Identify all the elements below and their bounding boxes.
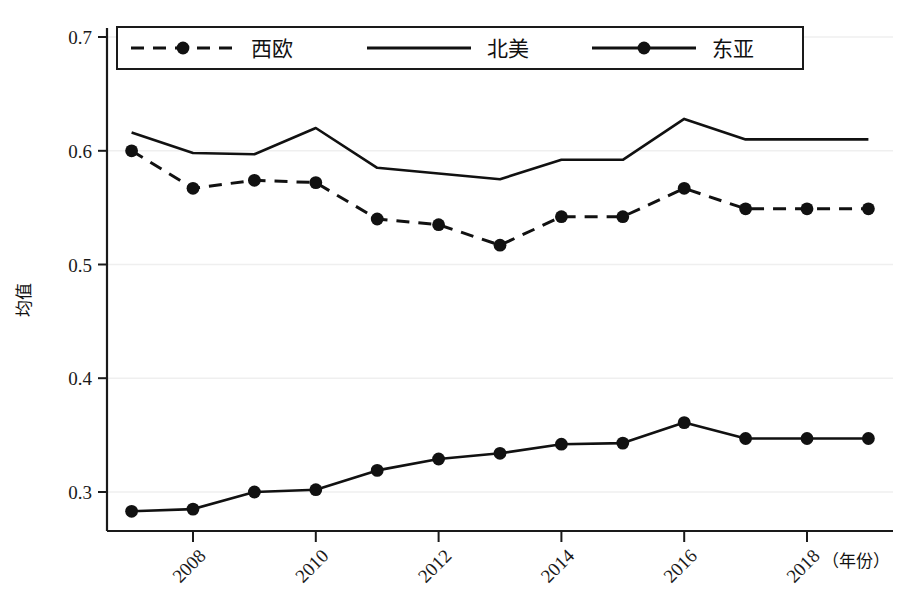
line-chart: 0.30.40.50.60.7 200820102012201420162018… (0, 0, 907, 610)
data-point (678, 182, 691, 195)
data-point (494, 447, 507, 460)
legend-marker-sample (638, 42, 651, 55)
y-axis-title: 均值 (15, 283, 34, 317)
data-point (432, 218, 445, 231)
legend-label: 西欧 (251, 37, 293, 60)
y-tick-label: 0.6 (68, 141, 92, 162)
data-point (494, 239, 507, 252)
chart-canvas: 0.30.40.50.60.7 200820102012201420162018… (0, 0, 907, 610)
data-point (739, 202, 752, 215)
data-point (309, 483, 322, 496)
data-point (125, 144, 138, 157)
chart-background (0, 0, 907, 610)
data-point (187, 503, 200, 516)
data-point (862, 202, 875, 215)
y-tick-label: 0.3 (68, 482, 92, 503)
data-point (555, 438, 568, 451)
data-point (248, 174, 261, 187)
legend-marker-sample (177, 42, 190, 55)
data-point (801, 432, 814, 445)
legend-label: 东亚 (712, 37, 754, 60)
data-point (616, 437, 629, 450)
legend-label: 北美 (487, 37, 529, 60)
data-point (432, 453, 445, 466)
data-point (555, 210, 568, 223)
data-point (371, 464, 384, 477)
y-tick-label: 0.5 (68, 255, 92, 276)
data-point (678, 416, 691, 429)
data-point (125, 505, 138, 518)
data-point (862, 432, 875, 445)
data-point (309, 176, 322, 189)
y-tick-label: 0.4 (68, 368, 92, 389)
data-point (187, 182, 200, 195)
data-point (248, 486, 261, 499)
x-axis-title: （年份） (822, 552, 890, 571)
data-point (801, 202, 814, 215)
data-point (371, 213, 384, 226)
y-tick-label: 0.7 (68, 27, 92, 48)
chart-legend: 西欧北美东亚 (117, 27, 803, 69)
data-point (739, 432, 752, 445)
data-point (616, 210, 629, 223)
